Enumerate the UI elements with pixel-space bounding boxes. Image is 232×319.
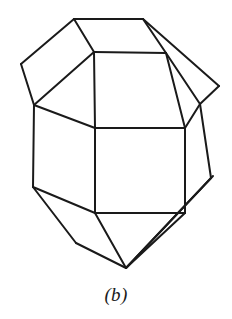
figure-caption: (b) bbox=[0, 283, 232, 307]
edge-left-outer-upper bbox=[94, 52, 95, 128]
face-lower-center-square bbox=[95, 128, 185, 213]
polyhedron-line-drawing bbox=[0, 0, 232, 319]
edge-upper-face-top bbox=[94, 52, 166, 53]
figure-container: (b) bbox=[0, 0, 232, 319]
edge-shoulder-to-facemid bbox=[33, 105, 34, 187]
